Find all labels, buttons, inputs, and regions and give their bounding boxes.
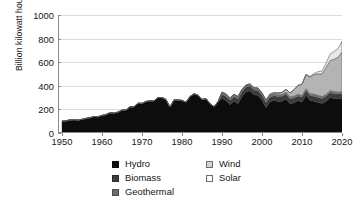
x-axis-tick-mark	[62, 133, 63, 136]
legend-swatch-geothermal-icon	[112, 189, 119, 196]
y-axis-tick-label: 1000	[20, 11, 54, 20]
y-axis-tick-mark	[58, 86, 61, 87]
y-axis-tick-label: 600	[20, 58, 54, 67]
legend-item-label: Wind	[219, 159, 240, 168]
x-axis-tick-label: 2020	[322, 136, 359, 147]
y-axis-tick-label: 800	[20, 35, 54, 44]
plot-frame	[58, 15, 342, 133]
chart-legend: HydroBiomassGeothermal WindSolar	[112, 157, 292, 199]
y-axis-tick-label: 400	[20, 82, 54, 91]
legend-swatch-biomass-icon	[112, 175, 119, 182]
x-axis-tick-mark	[142, 133, 143, 136]
y-axis-tick-mark	[58, 15, 61, 16]
x-axis-tick-label: 1970	[122, 136, 162, 147]
legend-item-biomass[interactable]: Biomass	[112, 171, 174, 185]
legend-column-1: HydroBiomassGeothermal	[112, 157, 174, 199]
x-axis-tick-label: 1950	[42, 136, 82, 147]
renewable-energy-area-chart: Billion kilowatt hours 02004006008001000…	[0, 0, 359, 205]
x-axis-tick-mark	[102, 133, 103, 136]
y-axis-tick-labels: 02004006008001000	[16, 15, 54, 133]
x-axis-tick-label: 1990	[202, 136, 242, 147]
y-axis-tick-label: 200	[20, 105, 54, 114]
x-axis-tick-mark	[302, 133, 303, 136]
x-axis-tick-mark	[182, 133, 183, 136]
legend-item-label: Hydro	[125, 159, 150, 168]
plot-area	[58, 15, 342, 133]
legend-item-label: Biomass	[125, 173, 161, 182]
y-axis-tick-mark	[58, 62, 61, 63]
x-axis-tick-labels: 19501960197019801990200020102020	[58, 136, 342, 150]
y-axis-tick-mark	[58, 133, 61, 134]
legend-item-geothermal[interactable]: Geothermal	[112, 185, 174, 199]
y-axis-tick-mark	[58, 39, 61, 40]
legend-item-label: Solar	[219, 173, 241, 182]
x-axis-tick-label: 2010	[282, 136, 322, 147]
legend-swatch-hydro-icon	[112, 161, 119, 168]
legend-item-wind[interactable]: Wind	[206, 157, 241, 171]
x-axis-tick-label: 1960	[82, 136, 122, 147]
legend-swatch-wind-icon	[206, 161, 213, 168]
legend-item-hydro[interactable]: Hydro	[112, 157, 174, 171]
x-axis-tick-mark	[222, 133, 223, 136]
legend-column-2: WindSolar	[206, 157, 241, 185]
y-axis-tick-mark	[58, 109, 61, 110]
x-axis-tick-mark	[262, 133, 263, 136]
x-axis-tick-mark	[342, 133, 343, 136]
x-axis-tick-label: 2000	[242, 136, 282, 147]
x-axis-tick-label: 1980	[162, 136, 202, 147]
legend-swatch-solar-icon	[206, 175, 213, 182]
legend-item-label: Geothermal	[125, 187, 174, 196]
gridline	[58, 133, 342, 134]
legend-item-solar[interactable]: Solar	[206, 171, 241, 185]
